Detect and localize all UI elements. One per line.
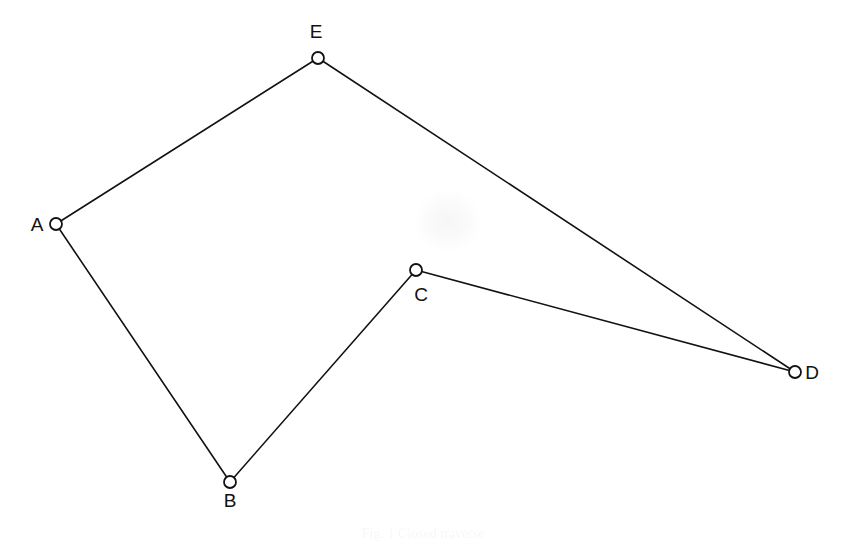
station-node-d[interactable]: [789, 366, 801, 378]
traverse-diagram-canvas: ABCDE Fig. 1 Closed traverse: [0, 0, 846, 544]
edge-a-b: [56, 224, 230, 482]
station-label-a: A: [31, 214, 44, 235]
station-node-c[interactable]: [410, 264, 422, 276]
station-label-e: E: [310, 21, 323, 42]
edge-e-d: [318, 58, 795, 372]
station-node-e[interactable]: [312, 52, 324, 64]
edge-b-c: [230, 270, 416, 482]
edge-a-e: [56, 58, 318, 224]
edge-c-d: [416, 270, 795, 372]
station-node-a[interactable]: [50, 218, 62, 230]
edges-group: [56, 58, 795, 482]
station-label-d: D: [805, 362, 819, 383]
traverse-figure: ABCDE: [0, 0, 846, 544]
station-node-b[interactable]: [224, 476, 236, 488]
station-label-c: C: [414, 284, 428, 305]
nodes-group: ABCDE: [31, 21, 819, 511]
station-label-b: B: [224, 490, 237, 511]
